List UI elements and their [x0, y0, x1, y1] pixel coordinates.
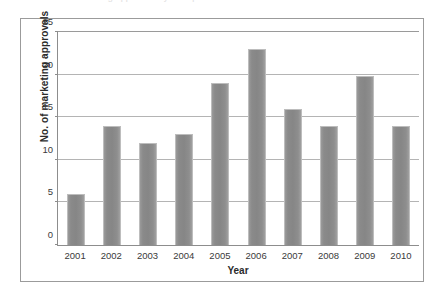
chart-frame: No. of marketing approvals 0510152025 20… — [20, 18, 424, 282]
bars-layer — [58, 32, 419, 245]
plot-area: 0510152025 — [57, 32, 419, 246]
bar-slot — [130, 32, 166, 245]
y-axis-tick-label: 10 — [42, 143, 53, 154]
x-axis-tick-label: 2009 — [347, 250, 383, 261]
x-axis-tick-label: 2005 — [202, 250, 238, 261]
bar-2009 — [356, 76, 374, 245]
bar-slot — [58, 32, 94, 245]
x-axis-tick-label: 2002 — [93, 250, 129, 261]
x-axis-tick-label: 2001 — [57, 250, 93, 261]
bar-2010 — [392, 126, 410, 245]
bar-2004 — [175, 134, 193, 245]
bar-2003 — [139, 143, 157, 245]
bar-2006 — [248, 49, 266, 245]
bar-slot — [275, 32, 311, 245]
bar-slot — [383, 32, 419, 245]
bar-2005 — [211, 83, 229, 245]
x-axis-tick-label: 2006 — [238, 250, 274, 261]
x-axis-ticks: 2001200220032004200520062007200820092010 — [57, 250, 419, 261]
bar-slot — [94, 32, 130, 245]
bar-slot — [238, 32, 274, 245]
y-axis-tick-label: 20 — [42, 58, 53, 69]
y-axis-tick-label: 5 — [48, 186, 53, 197]
x-axis-tick-label: 2010 — [383, 250, 419, 261]
bar-slot — [347, 32, 383, 245]
bar-2008 — [320, 126, 338, 245]
x-axis-tick-label: 2003 — [129, 250, 165, 261]
x-axis-tick-label: 2008 — [310, 250, 346, 261]
bar-2001 — [67, 194, 85, 245]
bar-slot — [202, 32, 238, 245]
top-caption-strip: marketing approvals by therapeutic area — [0, 0, 444, 11]
bar-2007 — [284, 109, 302, 245]
bar-slot — [166, 32, 202, 245]
x-axis-title: Year — [57, 265, 419, 276]
y-axis-tick-label: 25 — [42, 16, 53, 27]
y-axis-tick-label: 0 — [48, 229, 53, 240]
y-axis-tick-label: 15 — [42, 101, 53, 112]
bar-2002 — [103, 126, 121, 245]
x-axis-tick-label: 2004 — [166, 250, 202, 261]
x-axis-tick-label: 2007 — [274, 250, 310, 261]
caption-text: marketing approvals by therapeutic area — [72, 0, 238, 2]
bar-slot — [311, 32, 347, 245]
